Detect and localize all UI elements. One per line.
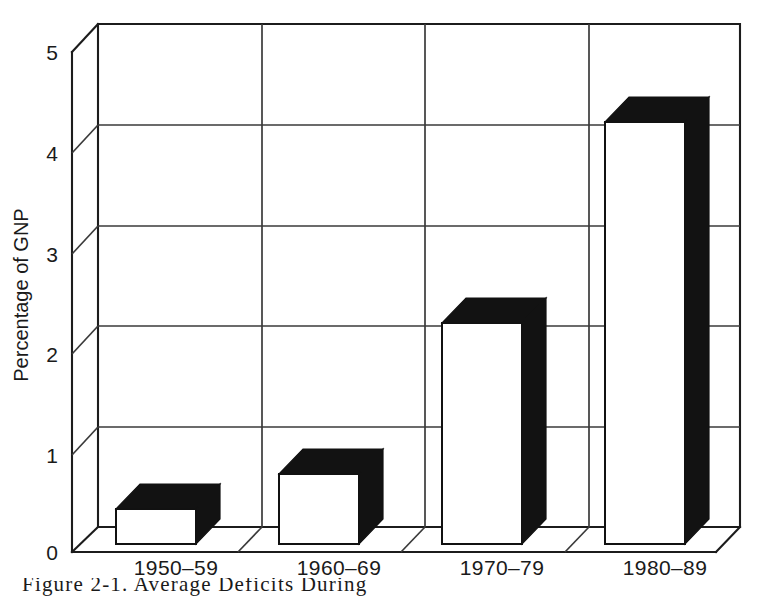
- floor-divider-2: [401, 527, 425, 552]
- floor-right-edge: [716, 527, 740, 552]
- bar-chart-canvas: 5 4 3 2 1 0 Percentage of GNP 1950–59 19…: [0, 0, 761, 596]
- bar-1980-89-side: [685, 97, 709, 544]
- y-axis-connector-4: [72, 125, 98, 153]
- y-tick-label-2: 2: [46, 343, 58, 366]
- y-tick-label-5: 5: [46, 41, 58, 64]
- bar-1970-79-side: [522, 298, 546, 544]
- x-label-1950-59: 1950–59: [134, 556, 219, 579]
- x-axis-category-labels: 1950–59 1960–69 1970–79 1980–89: [134, 556, 708, 579]
- y-axis-title: Percentage of GNP: [10, 208, 32, 381]
- bar-1960-69-front: [279, 474, 359, 544]
- bar-1980-89-front: [605, 122, 685, 544]
- y-axis-connector-5: [72, 24, 98, 52]
- y-axis-tick-labels: 5 4 3 2 1 0: [46, 41, 58, 564]
- figure-caption-clip: Figure 2-1. Average Deficits During: [0, 578, 761, 596]
- floor-divider-3: [565, 527, 589, 552]
- x-label-1970-79: 1970–79: [460, 556, 545, 579]
- y-axis-connector-0: [72, 527, 98, 552]
- bar-1970-79[interactable]: [442, 298, 546, 544]
- x-label-1980-89: 1980–89: [623, 556, 708, 579]
- y-tick-label-1: 1: [46, 444, 58, 467]
- y-axis-connector-3: [72, 226, 98, 254]
- bar-1980-89[interactable]: [605, 97, 709, 544]
- x-label-1960-69: 1960–69: [297, 556, 382, 579]
- y-tick-label-3: 3: [46, 243, 58, 266]
- y-tick-label-4: 4: [46, 142, 58, 165]
- y-axis-connector-1: [72, 427, 98, 455]
- bar-1970-79-front: [442, 323, 522, 544]
- figure-page: 5 4 3 2 1 0 Percentage of GNP 1950–59 19…: [0, 0, 761, 596]
- y-axis-connector-2: [72, 326, 98, 354]
- bar-1950-59[interactable]: [116, 484, 220, 544]
- y-tick-label-0: 0: [46, 541, 58, 564]
- bar-1960-69[interactable]: [279, 449, 383, 544]
- bar-1950-59-front: [116, 509, 196, 544]
- figure-caption: Figure 2-1. Average Deficits During: [22, 578, 367, 596]
- left-side-wall: [72, 24, 98, 552]
- floor-divider-1: [238, 527, 262, 552]
